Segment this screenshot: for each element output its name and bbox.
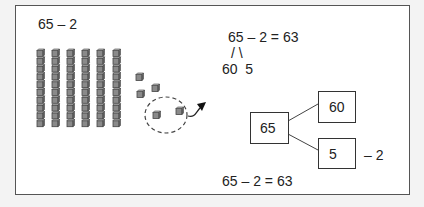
tens-rods	[37, 49, 121, 127]
bond-equation: 65 – 2 = 63	[228, 29, 298, 45]
ones-part-box: 5	[318, 138, 356, 169]
removed-group-circle	[145, 97, 187, 133]
remove-arrow	[188, 108, 200, 116]
whole-box: 65	[250, 112, 289, 144]
result-equation: 65 – 2 = 63	[222, 173, 292, 189]
ones-value: 5	[329, 146, 337, 162]
tens-value: 60	[329, 99, 345, 115]
whole-value: 65	[260, 120, 276, 136]
operation-label: – 2	[364, 147, 383, 163]
unit-cubes	[136, 73, 184, 119]
tens-part-box: 60	[318, 91, 356, 123]
bond-parts: 60 5	[222, 61, 253, 77]
bond-branch: / \	[231, 45, 243, 61]
base-ten-blocks	[0, 0, 424, 207]
